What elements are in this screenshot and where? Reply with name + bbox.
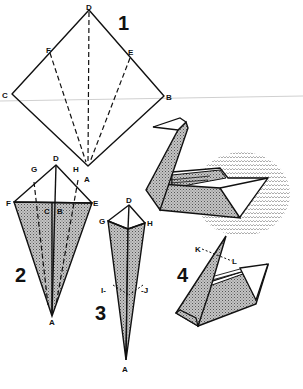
label-f: F (6, 199, 11, 208)
label-b: B (57, 207, 63, 216)
label-f: F (46, 46, 51, 55)
step-3: D G H I- -J A 3 (95, 196, 153, 374)
label-b: B (166, 93, 172, 102)
label-e: E (93, 199, 99, 208)
step-number-4: 4 (177, 264, 189, 286)
step-4: K L 4 (176, 236, 268, 326)
label-d: D (126, 196, 132, 205)
label-k: K (195, 245, 201, 254)
label-e: E (128, 48, 134, 57)
label-h: H (147, 219, 153, 228)
label-g: G (99, 217, 105, 226)
step-1-kite: D F E C B A 1 (2, 3, 172, 184)
step-number-2: 2 (15, 264, 26, 286)
scan-line (0, 96, 303, 101)
label-a: A (49, 318, 55, 327)
label-a: A (84, 175, 90, 184)
label-d: D (86, 3, 92, 12)
label-c: C (2, 91, 8, 100)
step-number-1: 1 (118, 12, 129, 34)
label-j: -J (141, 286, 148, 295)
label-h: H (73, 165, 79, 174)
origami-diagram: D F E C B A 1 D G H F C B E A 2 D G H I- (0, 0, 303, 389)
label-d: D (53, 154, 59, 163)
finished-swan (146, 118, 290, 236)
label-c: C (44, 207, 50, 216)
step-number-3: 3 (95, 302, 106, 324)
label-i: I- (101, 286, 106, 295)
label-a: A (122, 365, 128, 374)
label-g: G (31, 165, 37, 174)
label-l: L (232, 257, 237, 266)
